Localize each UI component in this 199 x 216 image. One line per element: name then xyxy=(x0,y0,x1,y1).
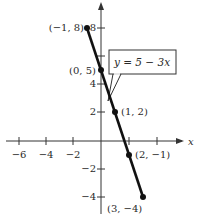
chart-root: −6 −4 −2 x 8 4 2 −2 −4 y = 5 − 3x xyxy=(0,0,199,216)
point-label: (2, −1) xyxy=(135,149,170,160)
data-point xyxy=(98,67,104,73)
point-label: (−1, 8) xyxy=(49,22,84,33)
x-tick-label: −2 xyxy=(66,149,81,160)
equation-callout: y = 5 − 3x xyxy=(108,50,176,101)
x-tick-label: −4 xyxy=(39,149,54,160)
point-label: (3, −4) xyxy=(107,203,142,214)
equation-label: y = 5 − 3x xyxy=(113,56,170,68)
data-point xyxy=(140,194,146,200)
data-point xyxy=(126,152,132,158)
y-axis-arrow-icon xyxy=(98,2,104,10)
y-tick-label: 8 xyxy=(90,22,96,33)
y-tick-label: −4 xyxy=(81,191,96,202)
y-tick-label: 4 xyxy=(90,78,96,89)
x-axis-arrow-icon xyxy=(176,138,184,144)
y-tick-label: 2 xyxy=(90,106,96,117)
data-point xyxy=(112,109,118,115)
x-tick-label: −6 xyxy=(12,149,27,160)
y-tick-label: −2 xyxy=(81,163,96,174)
point-label: (1, 2) xyxy=(121,106,148,117)
line-chart: −6 −4 −2 x 8 4 2 −2 −4 y = 5 − 3x xyxy=(0,0,199,216)
x-axis-label: x xyxy=(188,136,194,147)
point-label: (0, 5) xyxy=(69,65,96,76)
axes: −6 −4 −2 x 8 4 2 −2 −4 xyxy=(6,2,194,214)
data-point xyxy=(84,25,90,31)
